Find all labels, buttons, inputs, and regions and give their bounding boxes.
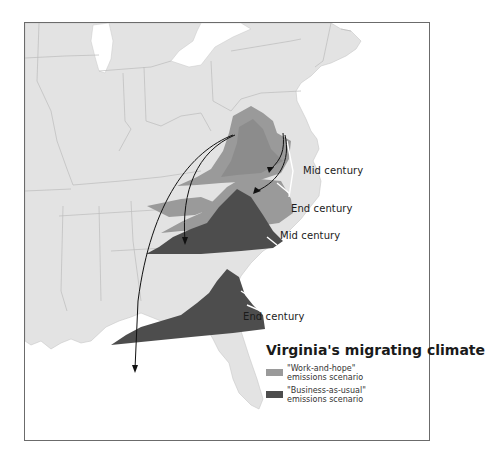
label-work-and-hope-mid-century: Mid century: [303, 165, 363, 176]
label-business-as-usual-end-century: End century: [243, 311, 305, 322]
map-canvas: [25, 23, 430, 441]
legend-sublabel-business-as-usual: emissions scenario: [287, 395, 366, 404]
legend-label-business-as-usual: "Business-as-usual": [287, 386, 366, 395]
swatch-work-and-hope: [266, 369, 283, 376]
label-work-and-hope-end-century: End century: [291, 203, 353, 214]
swatch-business-as-usual: [266, 391, 283, 398]
legend-title: Virginia's migrating climate: [266, 342, 485, 358]
label-business-as-usual-mid-century: Mid century: [280, 230, 340, 241]
legend-label-work-and-hope: "Work-and-hope": [287, 364, 363, 373]
legend-sublabel-work-and-hope: emissions scenario: [287, 373, 363, 382]
map-frame: [24, 22, 430, 441]
